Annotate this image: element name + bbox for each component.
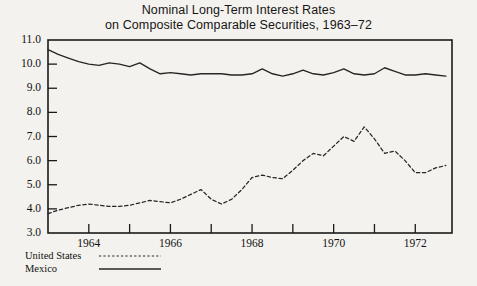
y-axis-tick-label: 10.0: [9, 57, 41, 69]
y-axis-tick-label: 6.0: [9, 154, 41, 166]
axis-ticks: [48, 64, 415, 233]
legend-swatch-mexico: [99, 264, 161, 274]
plot-frame: [48, 40, 452, 233]
y-axis-tick-label: 7.0: [9, 130, 41, 142]
y-axis-tick-label: 11.0: [9, 33, 41, 45]
y-axis-tick-label: 9.0: [9, 81, 41, 93]
legend-item-united-states: United States: [25, 249, 161, 262]
data-series-group: [48, 50, 446, 214]
chart-legend: United States Mexico: [25, 249, 161, 275]
legend-swatch-united-states: [99, 251, 161, 261]
legend-label-united-states: United States: [25, 250, 99, 261]
x-axis-tick-label: 1964: [69, 237, 109, 249]
x-axis-tick-label: 1968: [232, 237, 272, 249]
chart-figure: Nominal Long-Term Interest Rates on Comp…: [0, 0, 477, 286]
y-axis-tick-label: 5.0: [9, 178, 41, 190]
legend-label-mexico: Mexico: [25, 263, 99, 274]
legend-item-mexico: Mexico: [25, 262, 161, 275]
x-axis-tick-label: 1966: [150, 237, 190, 249]
x-axis-tick-label: 1972: [395, 237, 435, 249]
y-axis-tick-label: 8.0: [9, 105, 41, 117]
y-axis-tick-label: 4.0: [9, 202, 41, 214]
data-line-mexico: [48, 50, 446, 77]
y-axis-tick-label: 3.0: [9, 226, 41, 238]
data-line-united-states: [48, 127, 446, 214]
x-axis-tick-label: 1970: [314, 237, 354, 249]
